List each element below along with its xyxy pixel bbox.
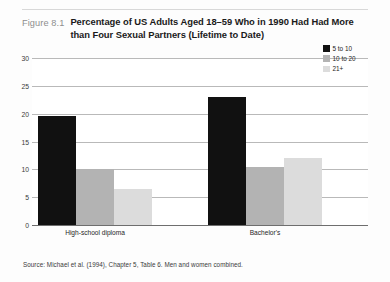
legend-swatch-icon — [323, 55, 330, 62]
bar[interactable] — [114, 189, 152, 225]
y-axis-tick-label: 10 — [21, 166, 29, 173]
legend-swatch-icon — [323, 45, 330, 52]
y-axis-tick-label: 15 — [21, 138, 29, 145]
y-axis-tick-label: 25 — [21, 82, 29, 89]
page-title: Percentage of US Adults Aged 18–59 Who i… — [70, 16, 353, 41]
legend-item[interactable]: 10 to 20 — [323, 55, 356, 62]
figure-page: Figure 8.1 Percentage of US Adults Aged … — [0, 0, 390, 282]
bar[interactable] — [208, 97, 246, 225]
bar[interactable] — [246, 167, 284, 225]
chart-container: 051015202530 High-school diplomaBachelor… — [0, 44, 390, 244]
bars-layer: High-school diplomaBachelor's — [32, 58, 368, 225]
figure-number: Figure 8.1 — [22, 16, 64, 29]
figure-title-line-2: than Four Sexual Partners (Lifetime to D… — [70, 29, 353, 42]
legend-item[interactable]: 5 to 10 — [323, 45, 356, 52]
plot-area: 051015202530 High-school diplomaBachelor… — [32, 58, 368, 226]
legend-swatch-icon — [323, 66, 330, 73]
y-axis-tick-label: 0 — [25, 222, 29, 229]
chart-legend: 5 to 1010 to 2021+ — [323, 45, 356, 72]
top-divider — [22, 9, 368, 10]
y-axis-tick-label: 20 — [21, 110, 29, 117]
x-axis-category-label: High-school diploma — [65, 229, 125, 236]
legend-label: 21+ — [333, 65, 344, 72]
legend-item[interactable]: 21+ — [323, 65, 356, 72]
source-note: Source: Michael et al. (1994), Chapter 5… — [23, 261, 243, 268]
x-axis-category-label: Bachelor's — [250, 229, 281, 236]
legend-label: 5 to 10 — [333, 45, 353, 52]
bar-group: High-school diploma — [38, 58, 152, 225]
figure-title-line-1: Percentage of US Adults Aged 18–59 Who i… — [70, 16, 353, 29]
y-axis-tick-label: 5 — [25, 194, 29, 201]
y-axis-tick-label: 30 — [21, 55, 29, 62]
bar-group: Bachelor's — [208, 58, 322, 225]
bar[interactable] — [38, 116, 76, 225]
legend-label: 10 to 20 — [333, 55, 356, 62]
figure-title-block: Figure 8.1 Percentage of US Adults Aged … — [22, 16, 370, 41]
bar[interactable] — [76, 169, 114, 225]
bar[interactable] — [284, 158, 322, 225]
